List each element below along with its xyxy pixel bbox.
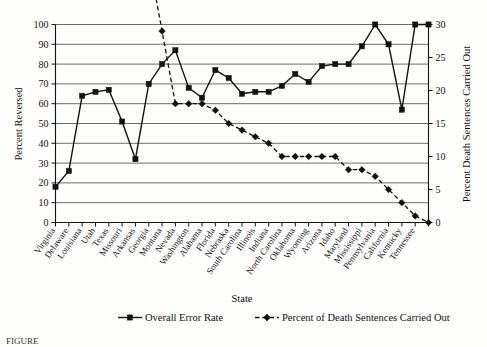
data-point-marker-square: [159, 62, 164, 67]
data-point-marker-square: [319, 63, 324, 68]
y-axis-left-tick-label: 100: [34, 19, 49, 30]
data-point-marker-square: [66, 168, 71, 173]
gridlines-group: [56, 44, 429, 202]
y-axis-right-tick-label: 20: [436, 85, 446, 96]
data-point-marker-diamond: [425, 219, 432, 226]
legend-label: Percent of Death Sentences Carried Out: [282, 312, 450, 323]
y-axis-right-tick-label: 25: [436, 52, 446, 63]
data-point-marker-square: [373, 22, 378, 27]
data-point-marker-square: [413, 22, 418, 27]
y-axis-left-title: Percent Reversed: [13, 87, 24, 161]
data-point-marker-square: [239, 91, 244, 96]
data-point-marker-square: [266, 89, 271, 94]
data-point-marker-diamond: [199, 100, 206, 107]
data-point-marker-diamond: [239, 127, 246, 134]
x-axis-ticks: [56, 223, 429, 227]
data-point-marker-square: [93, 89, 98, 94]
y-axis-right-tick-label: 0: [436, 217, 441, 228]
data-point-marker-square: [306, 79, 311, 84]
data-point-marker-diamond: [159, 28, 166, 35]
y-axis-left-tick-label: 60: [39, 98, 49, 109]
y-axis-left-tick-label: 50: [39, 118, 49, 129]
y-axis-left-tick-label: 20: [39, 177, 49, 188]
data-point-marker-square: [226, 75, 231, 80]
y-axis-right-tick-label: 30: [436, 19, 446, 30]
data-point-marker-diamond: [305, 153, 312, 160]
data-point-marker-diamond: [292, 153, 299, 160]
y-axis-right-title: Percent Death Sentences Carried Out: [461, 46, 472, 202]
series-line-death-sentences-carried-out: [56, 0, 429, 223]
data-point-marker-square: [127, 315, 132, 320]
data-point-marker-square: [293, 71, 298, 76]
data-point-marker-diamond: [372, 173, 379, 180]
data-point-marker-square: [146, 81, 151, 86]
data-point-marker-diamond: [212, 107, 219, 114]
data-point-marker-square: [333, 62, 338, 67]
data-point-marker-square: [173, 48, 178, 53]
data-point-marker-square: [80, 93, 85, 98]
data-point-marker-diamond: [172, 100, 179, 107]
data-point-marker-diamond: [399, 199, 406, 206]
data-point-marker-square: [106, 87, 111, 92]
data-point-marker-square: [253, 89, 258, 94]
y-axis-right-tick-label: 15: [436, 118, 446, 129]
data-series-layer: [52, 0, 432, 226]
chart-legend: Overall Error RatePercent of Death Sente…: [118, 312, 450, 323]
data-point-marker-diamond: [319, 153, 326, 160]
figure-caption: FIGURE: [6, 336, 39, 346]
data-point-marker-square: [359, 44, 364, 49]
data-point-marker-square: [399, 107, 404, 112]
x-axis-category-labels: VirginiaDelawareLouisianaUtahTexasMissou…: [32, 226, 417, 277]
data-point-marker-square: [120, 119, 125, 124]
y-axis-left-tick-label: 70: [39, 78, 49, 89]
data-point-marker-square: [346, 62, 351, 67]
x-axis-title: State: [232, 293, 253, 304]
data-point-marker-diamond: [359, 166, 366, 173]
data-point-marker-square: [53, 184, 58, 189]
y-axis-left-ticks: 0102030405060708090100: [34, 19, 56, 228]
figure-container: 0102030405060708090100 051015202530 Virg…: [0, 0, 487, 347]
y-axis-left-tick-label: 40: [39, 138, 49, 149]
data-point-marker-square: [133, 157, 138, 162]
data-point-marker-square: [426, 22, 431, 27]
data-point-marker-square: [213, 67, 218, 72]
y-axis-left-tick-label: 90: [39, 39, 49, 50]
y-axis-left-tick-label: 10: [39, 197, 49, 208]
y-axis-right-tick-label: 10: [436, 151, 446, 162]
data-point-marker-square: [199, 95, 204, 100]
data-point-marker-square: [279, 83, 284, 88]
y-axis-left-tick-label: 30: [39, 158, 49, 169]
data-point-marker-diamond: [185, 100, 192, 107]
data-point-marker-diamond: [264, 314, 271, 321]
y-axis-right-ticks: 051015202530: [429, 19, 446, 228]
data-point-marker-square: [186, 85, 191, 90]
data-point-marker-square: [386, 42, 391, 47]
chart-canvas: 0102030405060708090100 051015202530 Virg…: [0, 0, 487, 347]
legend-label: Overall Error Rate: [145, 312, 223, 323]
y-axis-left-tick-label: 80: [39, 59, 49, 70]
series-line-overall-error-rate: [56, 25, 429, 187]
y-axis-right-tick-label: 5: [436, 184, 441, 195]
data-point-marker-diamond: [252, 133, 259, 140]
data-point-marker-diamond: [345, 166, 352, 173]
